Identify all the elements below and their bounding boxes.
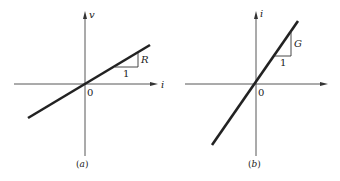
panel-a: v i 0 R 1 (a) bbox=[14, 9, 164, 169]
panel-a-horizontal-arrow-icon bbox=[150, 82, 158, 86]
panel-b-characteristic-line bbox=[212, 21, 298, 145]
panel-b-caption: (b) bbox=[248, 159, 261, 169]
panel-b-slope-label: G bbox=[294, 38, 302, 49]
panel-b-origin-label: 0 bbox=[258, 87, 264, 98]
panel-a-caption: (a) bbox=[76, 159, 88, 169]
panel-b: i 0 G 1 (b) bbox=[185, 8, 328, 169]
panel-b-vertical-axis-label: i bbox=[260, 8, 263, 19]
panel-a-vertical-arrow-icon bbox=[83, 11, 87, 19]
panel-a-origin-label: 0 bbox=[87, 87, 93, 98]
panel-a-vertical-axis-label: v bbox=[89, 9, 95, 20]
panel-b-run-label: 1 bbox=[280, 57, 286, 68]
panel-b-horizontal-arrow-icon bbox=[320, 82, 328, 86]
panel-a-horizontal-axis-label: i bbox=[161, 79, 164, 90]
panel-a-slope-label: R bbox=[140, 54, 149, 65]
panel-a-run-label: 1 bbox=[123, 68, 129, 79]
diagram-canvas: v i 0 R 1 (a) i 0 G 1 (b) bbox=[0, 0, 340, 181]
panel-b-vertical-arrow-icon bbox=[254, 11, 258, 19]
panel-a-characteristic-line bbox=[28, 45, 150, 118]
